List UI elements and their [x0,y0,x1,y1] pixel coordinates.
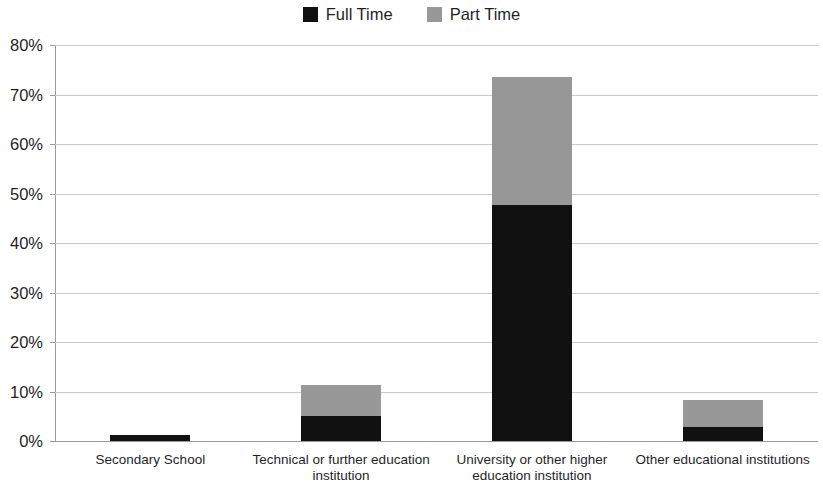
bar-segment-part-time[interactable] [492,77,572,205]
y-axis-label-20pct: 20% [0,334,43,351]
y-axis-label-10pct: 10% [0,383,43,400]
y-axis-label-40pct: 40% [0,235,43,252]
x-axis-label: Secondary School [55,452,246,468]
bar-slot [55,45,246,441]
y-axis-label-0pct: 0% [0,433,43,450]
bar-segment-part-time[interactable] [301,385,381,416]
y-axis-label-60pct: 60% [0,136,43,153]
bar-slot [627,45,818,441]
y-axis-label-30pct: 30% [0,284,43,301]
x-axis-label: Other educational institutions [627,452,818,468]
bar-slot [246,45,437,441]
gridline-0pct [55,441,818,442]
y-axis-label-50pct: 50% [0,185,43,202]
legend-swatch-part-time [427,7,442,22]
bar-series-group [55,45,818,441]
stacked-bar[interactable] [492,77,572,441]
x-axis-label: University or other higher education ins… [437,452,628,484]
x-axis-category-labels: Secondary SchoolTechnical or further edu… [55,452,818,488]
stacked-bar[interactable] [301,385,381,441]
x-axis-label: Technical or further education instituti… [246,452,437,484]
bar-segment-full-time[interactable] [683,427,763,441]
bar-segment-full-time[interactable] [301,416,381,441]
bar-slot [437,45,628,441]
y-axis-label-70pct: 70% [0,86,43,103]
bar-segment-full-time[interactable] [110,435,190,441]
legend-label-part-time: Part Time [450,6,521,23]
bar-segment-full-time[interactable] [492,205,572,441]
legend-item-full-time: Full Time [303,6,393,23]
stacked-bar[interactable] [683,400,763,441]
legend-item-part-time: Part Time [427,6,521,23]
y-axis-label-80pct: 80% [0,37,43,54]
legend-swatch-full-time [303,7,318,22]
bar-segment-part-time[interactable] [683,400,763,427]
chart-legend: Full Time Part Time [0,0,823,28]
y-tick-mark-0pct [50,441,55,442]
legend-label-full-time: Full Time [326,6,393,23]
stacked-bar[interactable] [110,435,190,441]
chart-plot-area: 0%10%20%30%40%50%60%70%80% [55,45,818,441]
